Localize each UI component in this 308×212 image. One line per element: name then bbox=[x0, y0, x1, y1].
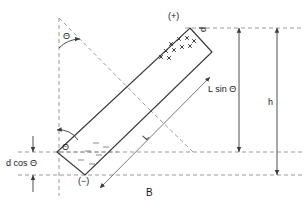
label-h: h bbox=[268, 98, 273, 107]
positive-charge-marks bbox=[157, 34, 197, 61]
label-thickness-d: d bbox=[199, 27, 208, 32]
label-negative-end: (−) bbox=[78, 177, 89, 186]
construction-dashed-lines bbox=[18, 18, 303, 196]
negative-charge-marks bbox=[78, 143, 109, 164]
label-positive-end: (+) bbox=[168, 12, 179, 21]
label-l-sin-theta: L sin Θ bbox=[208, 85, 236, 94]
label-angle-bottom: Θ bbox=[62, 143, 69, 152]
length-arrow bbox=[100, 77, 210, 188]
physics-diagram-figure: (+) d L Θ Θ (−) L sin Θ h d cos Θ B bbox=[0, 0, 308, 212]
angle-arcs bbox=[57, 39, 80, 140]
diagram-canvas bbox=[0, 0, 308, 212]
dashed-diagonal-upper bbox=[59, 18, 150, 110]
label-angle-top: Θ bbox=[63, 32, 70, 41]
length-arrow-line bbox=[100, 77, 210, 188]
label-d-cos-theta: d cos Θ bbox=[6, 159, 37, 168]
figure-caption: B bbox=[146, 187, 153, 198]
